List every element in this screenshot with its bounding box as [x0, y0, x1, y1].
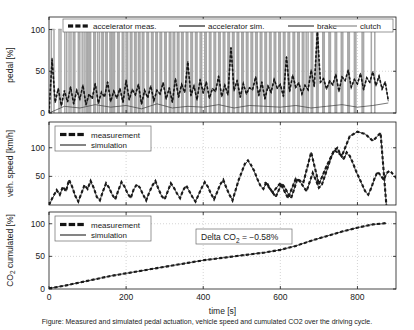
legend-label-simulation: simulation [91, 141, 127, 150]
y-tick-label: 50 [36, 171, 46, 181]
figure-container: 050100pedal [%]50100veh. speed [km/h]050… [0, 0, 414, 330]
legend-label-3: clutch [360, 22, 381, 31]
legend-co2-cumulated: measurementsimulation [55, 216, 151, 241]
y-tick-label: 100 [31, 143, 45, 153]
y-tick-label: 100 [31, 25, 45, 35]
y-tick-label: 50 [36, 66, 46, 76]
y-tick-label: 0 [40, 108, 45, 118]
y-axis-title: CO2 cumulated [%] [5, 214, 16, 287]
legend-marker-measurement [69, 223, 75, 226]
legend-marker-measurement [60, 223, 66, 226]
x-tick-label: 200 [119, 292, 133, 302]
legend-marker-accelerator-meas [68, 24, 73, 27]
legend-marker-measurement [77, 223, 83, 226]
x-axis-title: time [s] [209, 306, 236, 316]
multi-panel-chart: 050100pedal [%]50100veh. speed [km/h]050… [0, 0, 414, 318]
x-tick-label: 0 [47, 292, 52, 302]
legend-label-simulation: simulation [91, 231, 127, 240]
x-tick-label: 400 [196, 292, 210, 302]
y-axis-title: veh. speed [km/h] [5, 130, 15, 197]
legend-marker-measurement [60, 133, 66, 136]
annotation-label: Delta CO2 = −0.58% [201, 232, 279, 244]
legend-marker-measurement [77, 133, 83, 136]
y-tick-label: 50 [36, 251, 46, 261]
legend-vehicle-speed: measurementsimulation [55, 126, 151, 151]
y-tick-label: 100 [31, 219, 45, 229]
legend-label-measurement: measurement [91, 221, 141, 230]
y-axis-title: pedal [%] [5, 47, 15, 82]
legend-label-measurement: measurement [91, 131, 141, 140]
legend-marker-accelerator-meas [75, 24, 80, 27]
legend-pedal: accelerator meas.accelerator sim.brakecl… [63, 19, 393, 32]
legend-marker-accelerator-meas [83, 24, 88, 27]
x-tick-label: 600 [273, 292, 287, 302]
legend-label-1: accelerator sim. [208, 22, 264, 31]
annotation-delta-co2: Delta CO2 = −0.58% [196, 229, 292, 244]
x-tick-label: 800 [350, 292, 364, 302]
series-measurement-tail [387, 171, 414, 205]
legend-label-0: accelerator meas. [93, 22, 157, 31]
legend-marker-measurement [69, 133, 75, 136]
figure-caption: Figure: Measured and simulated pedal act… [0, 318, 414, 330]
y-tick-label: 0 [40, 284, 45, 294]
